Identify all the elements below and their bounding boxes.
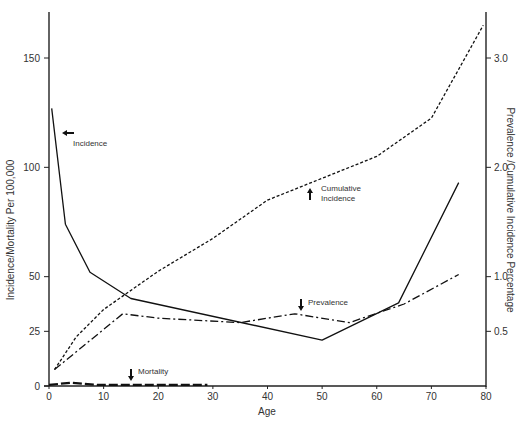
label-incidence: Incidence xyxy=(73,139,108,148)
x-tick-label: 70 xyxy=(426,391,438,402)
series-mortality xyxy=(49,383,207,385)
arrow-down-icon xyxy=(298,299,304,311)
x-tick-label: 60 xyxy=(371,391,383,402)
y-axis-title-left: Incidence/Mortality Per 100,000 xyxy=(5,159,16,300)
y-axis-title-right: Prevalence /Cumulative Incidence Percent… xyxy=(505,107,516,313)
y-tick-label-left: 50 xyxy=(29,271,41,282)
x-axis-title: Age xyxy=(258,406,276,417)
x-tick-label: 50 xyxy=(317,391,329,402)
series-lines xyxy=(49,25,483,385)
x-tick-label: 40 xyxy=(262,391,274,402)
y-tick-label-left: 25 xyxy=(29,326,41,337)
y-tick-label-left: 150 xyxy=(23,53,40,64)
x-tick-label: 20 xyxy=(153,391,165,402)
label-mortality: Mortality xyxy=(138,367,168,376)
x-tick-label: 10 xyxy=(98,391,110,402)
y-tick-label-left: 0 xyxy=(34,381,40,392)
label-cumulative: Cumulative xyxy=(321,184,362,193)
x-tick-label: 80 xyxy=(480,391,492,402)
y-tick-label-right: 0.5 xyxy=(494,326,508,337)
arrow-left-icon xyxy=(62,130,74,136)
y-tick-label-right: 3.0 xyxy=(494,53,508,64)
x-tick-label: 0 xyxy=(46,391,52,402)
chart: 01020304050607080025501001500.51.02.03.0… xyxy=(0,0,524,422)
annotations: IncidenceCumulativeIncidencePrevalenceMo… xyxy=(62,130,362,381)
axes: 01020304050607080025501001500.51.02.03.0 xyxy=(23,12,508,402)
series-incidence xyxy=(52,108,459,340)
arrow-down-icon xyxy=(128,369,134,381)
label-prevalence: Prevalence xyxy=(308,298,349,307)
label-cumulative-2: Incidence xyxy=(321,194,356,203)
y-tick-label-left: 100 xyxy=(23,162,40,173)
arrow-up-icon xyxy=(307,188,313,200)
x-tick-label: 30 xyxy=(207,391,219,402)
